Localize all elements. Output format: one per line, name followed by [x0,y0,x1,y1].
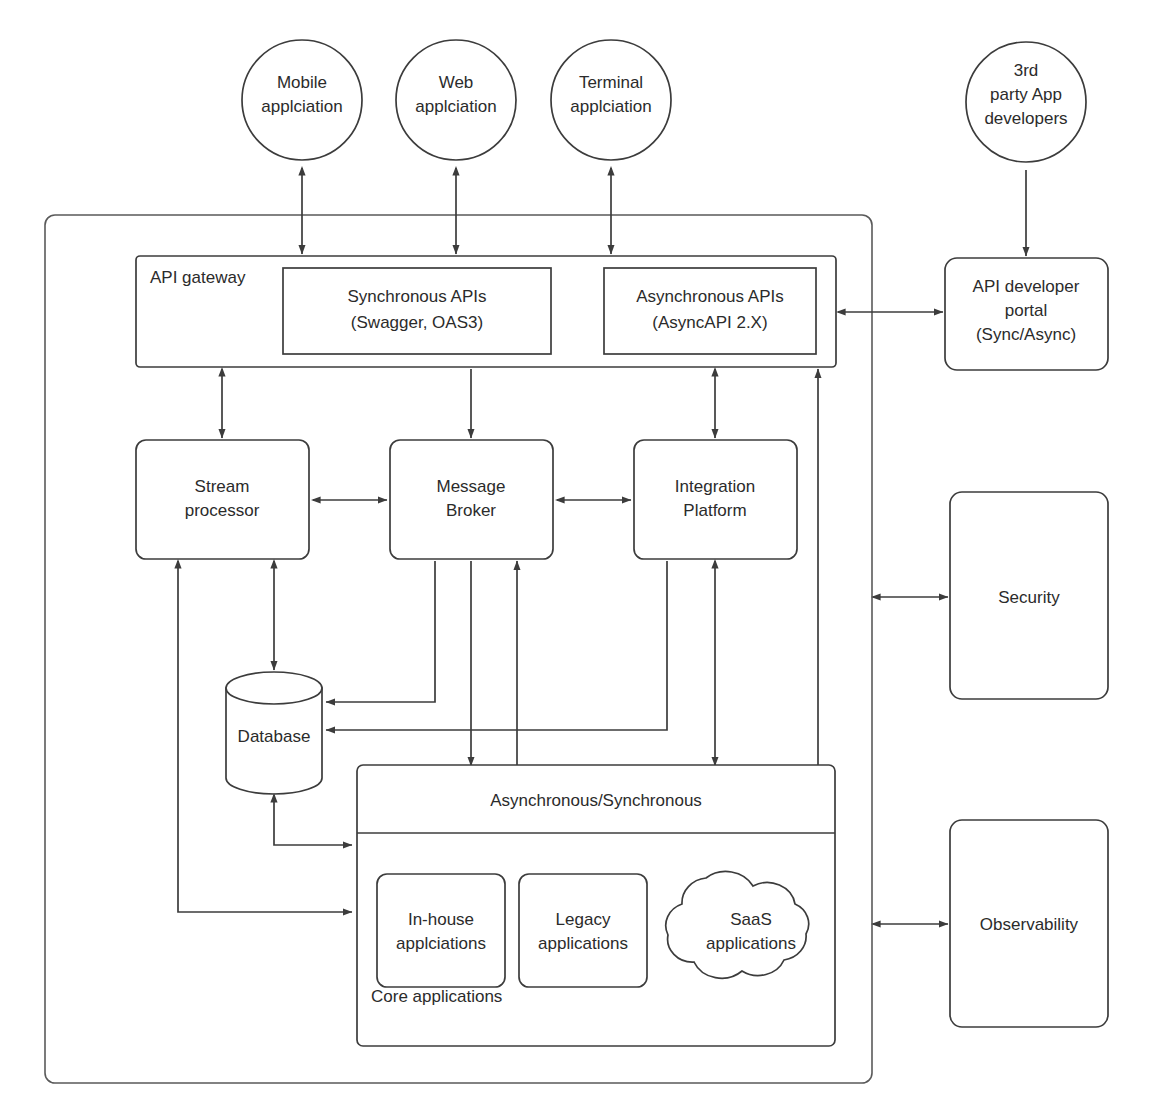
security[interactable]: Security [950,492,1108,699]
database[interactable]: Database [226,672,322,794]
asynchronous-apis-label-1: Asynchronous APIs [636,287,783,306]
consumer-mobile-label-1: Mobile [277,73,327,92]
core-group-label: Core applications [371,987,502,1006]
arrow-integration-database [326,561,667,730]
observability-label: Observability [980,915,1079,934]
stream-processor-label-2: processor [185,501,260,520]
synchronous-apis-box [283,268,551,354]
saas-label-2: applications [706,934,796,953]
integration-platform-label-1: Integration [675,477,755,496]
third-party-label-2: party App [990,85,1062,104]
asynchronous-apis-box [604,268,816,354]
consumer-terminal-label-2: applciation [570,97,651,116]
integration-platform[interactable]: Integration Platform [634,440,797,559]
saas-label-1: SaaS [730,910,772,929]
observability[interactable]: Observability [950,820,1108,1027]
third-party-label-1: 3rd [1014,61,1039,80]
consumer-web-label-2: applciation [415,97,496,116]
third-party-app-developers[interactable]: 3rd party App developers [966,42,1086,162]
consumer-terminal-label-1: Terminal [579,73,643,92]
security-label: Security [998,588,1060,607]
legacy-applications-box [519,874,647,987]
architecture-diagram: Mobile applciation Web applciation Termi… [0,0,1152,1120]
legacy-label-2: applications [538,934,628,953]
message-broker[interactable]: Message Broker [390,440,553,559]
in-house-label-1: In-house [408,910,474,929]
synchronous-apis-label-1: Synchronous APIs [348,287,487,306]
asynchronous-apis-label-2: (AsyncAPI 2.X) [652,313,767,332]
synchronous-apis[interactable]: Synchronous APIs (Swagger, OAS3) [283,268,551,354]
api-gateway[interactable]: API gateway Synchronous APIs (Swagger, O… [136,256,836,367]
message-broker-label-1: Message [437,477,506,496]
in-house-label-2: applciations [396,934,486,953]
api-developer-portal[interactable]: API developer portal (Sync/Async) [945,258,1108,370]
message-broker-box [390,440,553,559]
core-band-label: Asynchronous/Synchronous [490,791,702,810]
stream-processor-box [136,440,309,559]
stream-processor[interactable]: Stream processor [136,440,309,559]
portal-label-3: (Sync/Async) [976,325,1076,344]
consumer-mobile[interactable]: Mobile applciation [242,40,362,160]
synchronous-apis-label-2: (Swagger, OAS3) [351,313,483,332]
database-label: Database [238,727,311,746]
portal-label-1: API developer [973,277,1080,296]
consumer-web[interactable]: Web applciation [396,40,516,160]
integration-platform-box [634,440,797,559]
legacy-label-1: Legacy [556,910,611,929]
third-party-label-3: developers [984,109,1067,128]
in-house-applications[interactable]: In-house applciations [377,874,505,987]
core-applications[interactable]: Asynchronous/Synchronous Core applicatio… [357,765,835,1046]
portal-label-2: portal [1005,301,1048,320]
integration-platform-label-2: Platform [683,501,746,520]
consumer-web-label-1: Web [439,73,474,92]
legacy-applications[interactable]: Legacy applications [519,874,647,987]
asynchronous-apis[interactable]: Asynchronous APIs (AsyncAPI 2.X) [604,268,816,354]
consumer-terminal[interactable]: Terminal applciation [551,40,671,160]
consumer-mobile-label-2: applciation [261,97,342,116]
database-top [226,672,322,704]
stream-processor-label-1: Stream [195,477,250,496]
arrow-broker-database [326,561,435,702]
message-broker-label-2: Broker [446,501,496,520]
in-house-applications-box [377,874,505,987]
api-gateway-label: API gateway [150,268,246,287]
arrow-database-core [274,795,352,845]
